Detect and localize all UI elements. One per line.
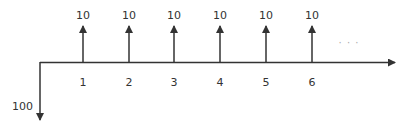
inflow-label: 10 <box>76 9 90 22</box>
inflow-6: 10 6 <box>305 9 319 89</box>
outflow-label: 100 <box>12 100 33 113</box>
period-label: 5 <box>263 76 270 89</box>
inflow-2: 10 2 <box>122 9 136 89</box>
inflow-label: 10 <box>305 9 319 22</box>
inflow-label: 10 <box>122 9 136 22</box>
cash-flow-diagram: 100 10 1 10 2 10 3 10 4 10 5 10 6 · · · <box>0 0 411 131</box>
inflow-5: 10 5 <box>259 9 273 89</box>
period-label: 1 <box>80 76 87 89</box>
inflow-label: 10 <box>213 9 227 22</box>
continuation-ellipsis: · · · <box>339 37 360 48</box>
inflow-1: 10 1 <box>76 9 90 89</box>
inflow-3: 10 3 <box>167 9 181 89</box>
inflow-label: 10 <box>259 9 273 22</box>
period-label: 3 <box>171 76 178 89</box>
period-label: 2 <box>126 76 133 89</box>
period-label: 6 <box>309 76 316 89</box>
inflow-4: 10 4 <box>213 9 227 89</box>
period-label: 4 <box>217 76 224 89</box>
inflow-label: 10 <box>167 9 181 22</box>
